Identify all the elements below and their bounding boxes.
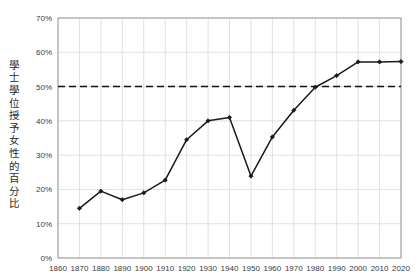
x-axis-tick-label: 2000 bbox=[349, 264, 367, 273]
y-axis-title-char: 位 bbox=[9, 97, 20, 109]
x-axis-tick-label: 1910 bbox=[156, 264, 174, 273]
y-axis-title-char: 予 bbox=[9, 122, 20, 134]
y-axis-title-char: 士 bbox=[9, 71, 20, 83]
y-axis-title-char: 比 bbox=[9, 197, 20, 209]
x-axis-tick-label: 1870 bbox=[71, 264, 89, 273]
y-axis-title-char: 學 bbox=[9, 59, 20, 71]
y-axis-title-char: 的 bbox=[9, 160, 20, 172]
y-axis-title-char: 性 bbox=[9, 147, 20, 159]
y-axis-tick-label: 30% bbox=[36, 151, 52, 160]
x-axis-tick-label: 1890 bbox=[113, 264, 131, 273]
y-axis-title-char: 學 bbox=[9, 84, 20, 96]
chart-container: 1860187018801890190019101920193019401950… bbox=[0, 0, 420, 280]
y-axis-title-char: 百 bbox=[9, 172, 20, 184]
y-axis-tick-label: 10% bbox=[36, 220, 52, 229]
x-axis-tick-labels: 1860187018801890190019101920193019401950… bbox=[49, 264, 410, 273]
x-axis-tick-label: 1970 bbox=[285, 264, 303, 273]
line-chart: 1860187018801890190019101920193019401950… bbox=[0, 0, 420, 280]
x-axis-tick-label: 1950 bbox=[242, 264, 260, 273]
y-axis-tick-label: 60% bbox=[36, 48, 52, 57]
y-axis-tick-label: 0% bbox=[40, 254, 52, 263]
x-axis-tick-label: 1880 bbox=[92, 264, 110, 273]
y-axis-title: 學士學位授予女性的百分比 bbox=[9, 59, 20, 210]
y-axis-title-char: 授 bbox=[9, 109, 20, 121]
x-axis-tick-label: 1990 bbox=[328, 264, 346, 273]
y-axis-title-char: 女 bbox=[9, 134, 20, 146]
y-axis-tick-label: 50% bbox=[36, 83, 52, 92]
x-axis-tick-label: 1940 bbox=[221, 264, 239, 273]
x-axis-tick-label: 1930 bbox=[199, 264, 217, 273]
x-axis-tick-label: 1980 bbox=[306, 264, 324, 273]
chart-background bbox=[0, 0, 420, 280]
x-axis-tick-label: 1860 bbox=[49, 264, 67, 273]
y-axis-tick-label: 20% bbox=[36, 185, 52, 194]
y-axis-tick-label: 70% bbox=[36, 14, 52, 23]
y-axis-tick-label: 40% bbox=[36, 117, 52, 126]
x-axis-tick-label: 1900 bbox=[135, 264, 153, 273]
y-axis-title-char: 分 bbox=[9, 185, 20, 197]
x-axis-tick-label: 2020 bbox=[392, 264, 410, 273]
x-axis-tick-label: 1920 bbox=[178, 264, 196, 273]
x-axis-tick-label: 2010 bbox=[371, 264, 389, 273]
x-axis-tick-label: 1960 bbox=[263, 264, 281, 273]
